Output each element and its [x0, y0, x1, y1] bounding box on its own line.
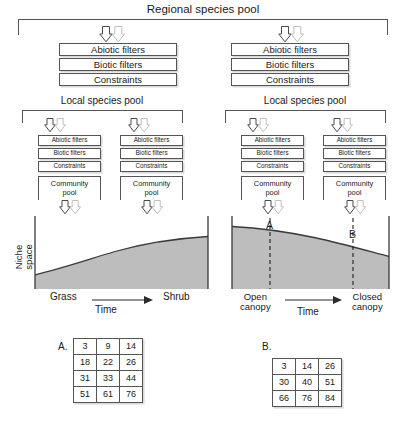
table-row: 66 76 84 — [273, 391, 342, 407]
chart-b-marker-label-b: B — [349, 229, 356, 240]
local-pool-bracket-right-wall — [385, 110, 386, 123]
table-cell: 26 — [120, 355, 143, 371]
table-row: 18 22 26 — [74, 355, 143, 371]
table-row: 31 33 44 — [74, 371, 143, 387]
regional-pool-group: Regional species pool — [0, 0, 406, 46]
arrow-down-icon-svg — [331, 118, 353, 133]
table-cell: 76 — [120, 387, 143, 403]
arrow-down-icon-svg — [99, 26, 125, 43]
filter-box-constraints: Constraints — [59, 73, 177, 86]
arrow-down-icon-svg — [59, 200, 81, 215]
table-cell: 51 — [74, 387, 97, 403]
chart-a-svg — [30, 216, 210, 290]
table-b-caption: B. — [262, 342, 271, 352]
chart-a-xlabel: Time — [95, 305, 117, 316]
arrow-down-icon-svg — [141, 200, 163, 215]
filter-box-abiotic: Abiotic filters — [38, 135, 101, 146]
table-cell: 3 — [273, 359, 296, 375]
chart-b — [228, 216, 393, 290]
table-cell: 14 — [120, 339, 143, 355]
table-b: 3 14 26 30 40 51 66 76 84 — [272, 358, 342, 407]
table-cell: 26 — [319, 359, 342, 375]
table-cell: 9 — [97, 339, 120, 355]
filter-box-biotic: Biotic filters — [231, 58, 349, 71]
local-pool-bracket-left-wall — [22, 110, 23, 123]
table-b-body: 3 14 26 30 40 51 66 76 84 — [273, 359, 342, 407]
local-pool-group-left: Local species pool — [0, 94, 203, 128]
community-pool-box: Community pool — [241, 176, 304, 200]
local-pool-title: Local species pool — [22, 96, 182, 107]
community-pool-box: Community pool — [323, 176, 386, 200]
regional-pool-bracket — [18, 19, 388, 35]
chart-b-x-end-label: Closed canopy — [352, 292, 383, 313]
filter-box-abiotic: Abiotic filters — [120, 135, 183, 146]
table-row: 3 9 14 — [74, 339, 143, 355]
filter-box-abiotic: Abiotic filters — [231, 43, 349, 56]
table-cell: 40 — [296, 375, 319, 391]
chart-b-svg — [228, 216, 393, 290]
filter-box-constraints: Constraints — [241, 161, 304, 172]
table-cell: 31 — [74, 371, 97, 387]
filter-box-biotic: Biotic filters — [323, 148, 386, 159]
filter-box-abiotic: Abiotic filters — [59, 43, 177, 56]
table-cell: 14 — [296, 359, 319, 375]
table-a: 3 9 14 18 22 26 31 33 44 51 61 76 — [73, 338, 143, 403]
table-cell: 30 — [273, 375, 296, 391]
table-row: 30 40 51 — [273, 375, 342, 391]
filter-box-biotic: Biotic filters — [120, 148, 183, 159]
filter-box-biotic: Biotic filters — [59, 58, 177, 71]
local-pool-bracket-right-wall — [182, 110, 183, 123]
chart-a-area — [35, 237, 208, 290]
table-cell: 61 — [97, 387, 120, 403]
chart-b-xlabel: Time — [297, 307, 319, 318]
chart-b-x-start-label: Open canopy — [240, 292, 271, 313]
table-cell: 22 — [97, 355, 120, 371]
chart-b-area — [232, 227, 389, 290]
filter-box-constraints: Constraints — [38, 161, 101, 172]
arrow-down-icon-svg — [278, 26, 304, 43]
filter-box-abiotic: Abiotic filters — [323, 135, 386, 146]
community-pool-label: Community pool — [51, 180, 88, 197]
table-a-caption: A. — [58, 342, 67, 352]
table-cell: 84 — [319, 391, 342, 407]
filter-box-abiotic: Abiotic filters — [241, 135, 304, 146]
regional-pool-title: Regional species pool — [0, 3, 406, 15]
chart-b-marker-label-a: A — [266, 220, 273, 231]
table-cell: 18 — [74, 355, 97, 371]
chart-a-x-end-label: Shrub — [163, 292, 190, 303]
table-a-body: 3 9 14 18 22 26 31 33 44 51 61 76 — [74, 339, 143, 403]
local-pool-bracket-top — [22, 110, 182, 111]
community-pool-box: Community pool — [120, 176, 183, 200]
community-pool-label: Community pool — [254, 180, 291, 197]
filter-box-constraints: Constraints — [231, 73, 349, 86]
table-cell: 66 — [273, 391, 296, 407]
arrow-down-icon-svg — [262, 200, 284, 215]
table-row: 3 14 26 — [273, 359, 342, 375]
local-pool-bracket-top — [225, 110, 385, 111]
filter-box-biotic: Biotic filters — [241, 148, 304, 159]
filter-box-constraints: Constraints — [120, 161, 183, 172]
community-pool-box: Community pool — [38, 176, 101, 200]
regional-pool-bracket-top — [18, 19, 388, 20]
table-cell: 51 — [319, 375, 342, 391]
table-cell: 3 — [74, 339, 97, 355]
community-pool-label: Community pool — [336, 180, 373, 197]
table-cell: 76 — [296, 391, 319, 407]
table-cell: 33 — [97, 371, 120, 387]
table-row: 51 61 76 — [74, 387, 143, 403]
local-pool-bracket-left-wall — [225, 110, 226, 123]
arrow-down-icon-svg — [128, 118, 150, 133]
arrow-down-icon-svg — [247, 118, 269, 133]
chart-a — [30, 216, 210, 290]
arrow-down-icon-svg — [44, 118, 66, 133]
arrow-down-icon-svg — [344, 200, 366, 215]
filter-box-constraints: Constraints — [323, 161, 386, 172]
chart-b-time-arrow-svg — [285, 294, 343, 306]
local-pool-title: Local species pool — [225, 96, 385, 107]
table-cell: 44 — [120, 371, 143, 387]
filter-box-biotic: Biotic filters — [38, 148, 101, 159]
community-pool-label: Community pool — [133, 180, 170, 197]
chart-a-x-start-label: Grass — [50, 292, 77, 303]
local-pool-group-right: Local species pool — [203, 94, 406, 128]
